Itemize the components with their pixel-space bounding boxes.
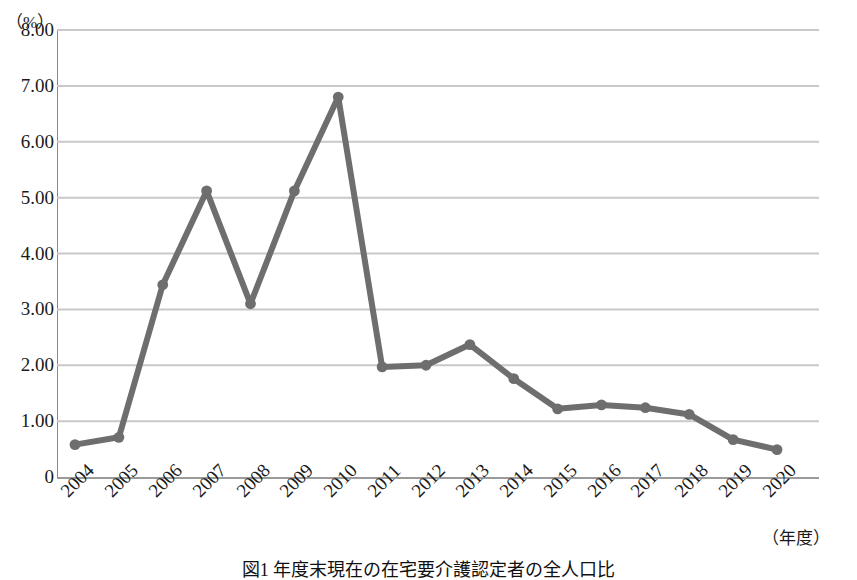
x-axis-tick-label: 2019 <box>715 460 755 500</box>
x-axis-tick-label: 2005 <box>101 460 141 500</box>
x-axis-tick-label: 2004 <box>57 460 97 500</box>
x-axis-tick-label: 2016 <box>584 460 624 500</box>
x-axis-tick-label: 2015 <box>540 460 580 500</box>
x-axis-tick-label: 2007 <box>189 460 229 500</box>
x-axis-tick-label: 2013 <box>452 460 492 500</box>
figure-caption: 図1 年度末現在の在宅要介護認定者の全人口比 <box>0 560 857 580</box>
x-axis-tick-label: 2010 <box>320 460 360 500</box>
x-axis-tick-label: 2009 <box>276 460 316 500</box>
x-axis-unit-label: （年度） <box>762 524 830 549</box>
x-axis-tick-label: 2008 <box>233 460 273 500</box>
x-axis-tick-label: 2012 <box>408 460 448 500</box>
x-axis-tick-label: 2011 <box>364 461 404 501</box>
x-axis-tick-label: 2014 <box>496 460 536 500</box>
x-axis-tick-label: 2018 <box>671 460 711 500</box>
x-axis-tick-label: 2006 <box>145 460 185 500</box>
x-axis-tick-label: 2017 <box>627 460 667 500</box>
x-axis-tick-label: 2020 <box>759 460 799 500</box>
